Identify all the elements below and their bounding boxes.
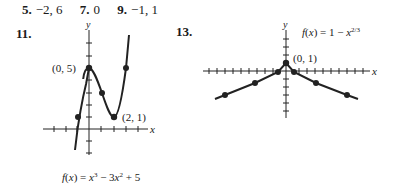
graph-13: y x (0, 1) f(x) = 1 − x2/3 bbox=[0, 0, 394, 186]
y-axis-label: y bbox=[282, 19, 288, 30]
point-label-0-1: (0, 1) bbox=[293, 52, 317, 65]
x-axis-label: x bbox=[371, 65, 377, 77]
caption-13: f(x) = 1 − x2/3 bbox=[302, 26, 361, 39]
